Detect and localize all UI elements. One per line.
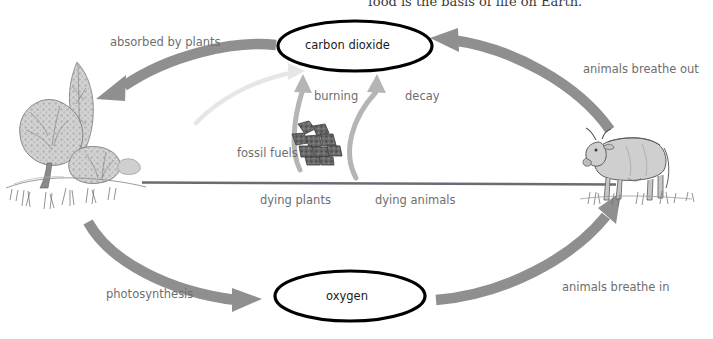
coal-lumps-illustration <box>292 121 342 165</box>
ground-line <box>142 183 616 185</box>
label-absorbed-by-plants: absorbed by plants <box>110 36 221 49</box>
oxygen-label: oxygen <box>326 289 368 303</box>
carbon-cycle-diagram: food is the basis of life on Earth. carb… <box>0 0 713 339</box>
label-burning: burning <box>314 90 358 103</box>
carbon-dioxide-label: carbon dioxide <box>305 38 390 52</box>
arrow-animals-breathe-out <box>430 28 610 130</box>
arrow-faint-fossil-to-co2 <box>196 63 305 123</box>
label-animals-breathe-out: animals breathe out <box>583 63 699 76</box>
label-fossil-fuels: fossil fuels <box>237 147 298 160</box>
cow-illustration <box>580 128 694 206</box>
page-heading-partial: food is the basis of life on Earth. <box>368 0 582 9</box>
label-decay: decay <box>405 90 440 103</box>
arrow-absorbed-by-plants <box>96 44 276 101</box>
label-dying-animals: dying animals <box>375 194 456 207</box>
label-animals-breathe-in: animals breathe in <box>562 281 670 294</box>
label-photosynthesis: photosynthesis <box>106 288 193 301</box>
label-dying-plants: dying plants <box>260 194 331 207</box>
